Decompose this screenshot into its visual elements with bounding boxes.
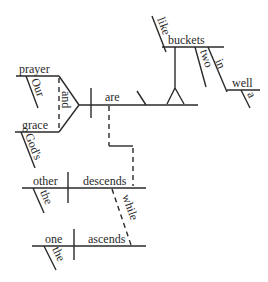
- fork-lower: [59, 105, 79, 132]
- word-one: one: [45, 232, 62, 246]
- word-prayer: prayer: [19, 62, 50, 76]
- word-our: Our: [28, 76, 48, 98]
- word-the-2: the: [49, 244, 68, 263]
- word-other: other: [33, 174, 58, 188]
- pedestal-right: [175, 88, 184, 104]
- word-grace: grace: [22, 118, 48, 132]
- word-descends: descends: [83, 174, 127, 188]
- sentence-diagram: prayer Our grace God's and are like buck…: [0, 0, 268, 282]
- word-and: and: [59, 91, 73, 108]
- word-buckets: buckets: [168, 33, 205, 47]
- pedestal-left: [167, 88, 175, 104]
- word-are: are: [105, 90, 120, 104]
- word-well: well: [232, 76, 253, 90]
- word-while: while: [119, 192, 141, 222]
- complement-divider: [137, 91, 146, 105]
- word-a: a: [244, 89, 259, 101]
- word-ascends: ascends: [88, 232, 126, 246]
- word-gods: God's: [22, 131, 45, 162]
